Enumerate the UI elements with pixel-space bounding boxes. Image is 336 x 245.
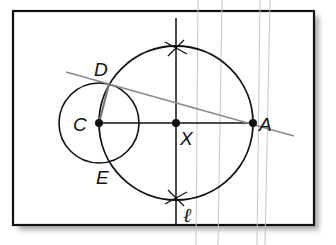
point-x [172,119,180,127]
diagram-canvas: D C X A E ℓ [0,0,336,245]
label-a: A [258,114,272,135]
label-d: D [94,59,108,80]
label-e: E [96,167,109,188]
label-x: X [179,128,194,149]
point-a [249,119,257,127]
label-c: C [73,114,87,135]
point-c [95,119,103,127]
construction-diagram: D C X A E ℓ [0,0,336,245]
label-l: ℓ [183,203,192,227]
